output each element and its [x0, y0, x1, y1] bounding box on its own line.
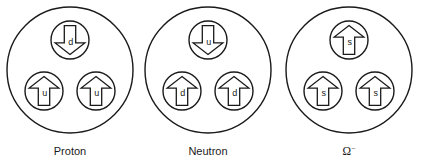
particle-group-omega-minus: sssΩ−	[286, 7, 412, 157]
particle-group-neutron: uddNeutron	[145, 7, 271, 157]
quark-flavor-label: d	[232, 88, 237, 98]
quark-s-up: s	[356, 72, 394, 110]
particle-group-proton: duuProton	[7, 7, 133, 157]
caption-symbol: Ω	[343, 145, 352, 157]
quark-d-up: d	[215, 72, 253, 110]
quark-d-up: d	[163, 72, 201, 110]
quark-flavor-label: s	[374, 88, 379, 98]
caption-charge-superscript: −	[351, 144, 355, 153]
quark-flavor-label: s	[348, 37, 353, 47]
quark-flavor-label: u	[206, 37, 211, 47]
quark-u-down: u	[189, 21, 227, 59]
quark-u-up: u	[77, 72, 115, 110]
particle-caption: Neutron	[188, 145, 227, 157]
quark-s-up: s	[330, 21, 368, 59]
quark-flavor-label: u	[42, 88, 47, 98]
particle-caption: Proton	[54, 145, 86, 157]
quark-flavor-label: u	[94, 88, 99, 98]
quark-flavor-label: d	[180, 88, 185, 98]
quark-u-up: u	[25, 72, 63, 110]
quark-d-down: d	[51, 21, 89, 59]
quark-flavor-label: d	[68, 37, 73, 47]
particle-caption: Ω−	[343, 144, 356, 157]
baryon-quark-composition-figure: duuProtonuddNeutronsssΩ−	[0, 0, 423, 166]
quark-s-up: s	[304, 72, 342, 110]
particle-diagram-canvas: duuProtonuddNeutronsssΩ−	[0, 0, 423, 166]
quark-flavor-label: s	[322, 88, 327, 98]
